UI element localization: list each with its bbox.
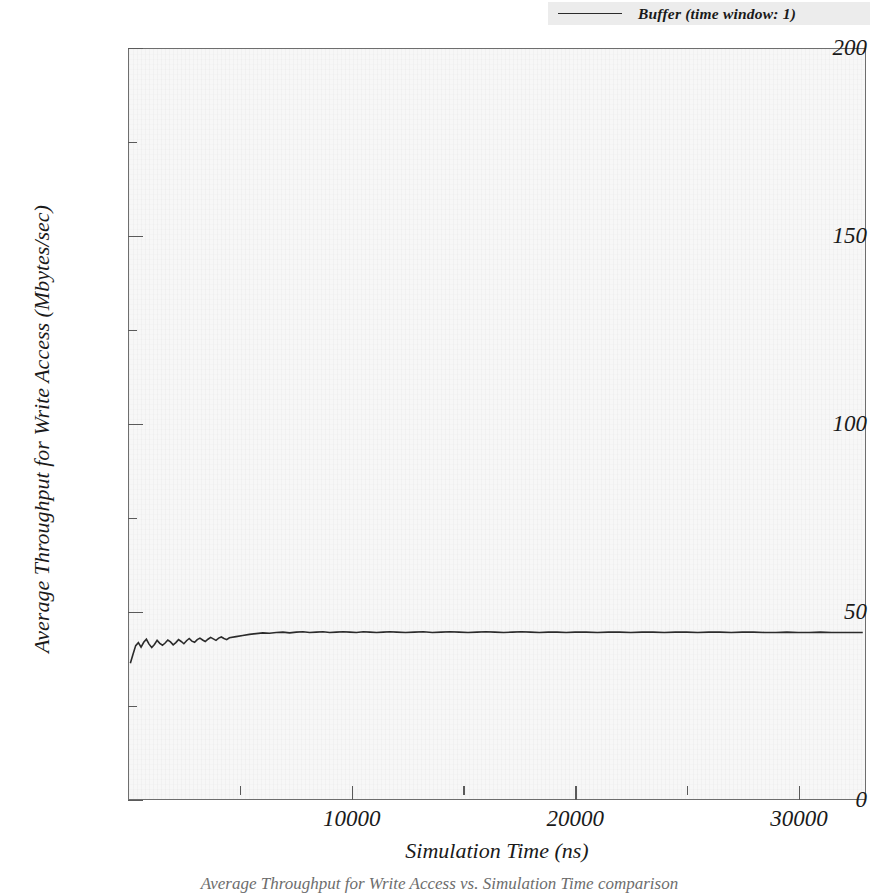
x-tick-major <box>575 786 576 800</box>
x-tick-major <box>799 786 800 800</box>
figure-caption: Average Throughput for Write Access vs. … <box>0 874 879 893</box>
x-tick-major <box>352 786 353 800</box>
y-axis-title: Average Throughput for Write Access (Mby… <box>29 49 55 809</box>
y-tick-minor <box>128 706 137 707</box>
x-tick-minor <box>240 786 241 795</box>
y-tick-minor <box>128 142 137 143</box>
y-tick-label: 150 <box>761 223 879 249</box>
y-tick-major <box>128 48 143 49</box>
x-tick-label: 10000 <box>323 806 381 832</box>
y-tick-label: 200 <box>761 35 879 61</box>
y-tick-minor <box>128 330 137 331</box>
y-tick-label: 50 <box>761 599 879 625</box>
plot-canvas <box>129 49 865 799</box>
chart-legend: Buffer (time window: 1) <box>548 2 870 25</box>
x-tick-minor <box>463 786 464 795</box>
plot-area <box>128 48 866 800</box>
x-tick-label: 30000 <box>770 806 828 832</box>
chart-figure: Buffer (time window: 1) 050100150200 100… <box>0 0 879 893</box>
y-tick-major <box>128 424 143 425</box>
y-tick-major <box>128 800 143 801</box>
data-series-buffer <box>130 632 862 664</box>
y-tick-minor <box>128 518 137 519</box>
y-tick-major <box>128 236 143 237</box>
legend-label-buffer: Buffer (time window: 1) <box>638 5 796 23</box>
x-tick-minor <box>687 786 688 795</box>
y-tick-major <box>128 612 143 613</box>
legend-line-sample-buffer <box>558 13 622 14</box>
x-axis-title: Simulation Time (ns) <box>128 838 866 864</box>
y-tick-label: 100 <box>761 411 879 437</box>
x-tick-label: 20000 <box>547 806 605 832</box>
